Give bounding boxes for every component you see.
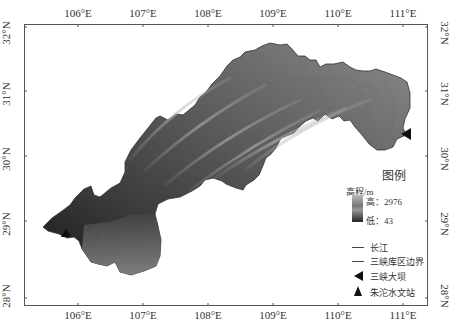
elevation-high: 高：2976	[366, 195, 402, 208]
legend-item-boundary: 三峡库区边界	[346, 255, 428, 267]
legend-item-label: 三峡大坝	[370, 270, 406, 283]
elevation-low: 低：43	[366, 214, 393, 227]
legend-item-yangtze: 长江	[346, 241, 428, 253]
legend-item-label: 朱沱水文站	[370, 286, 415, 299]
legend-item-dam: 三峡大坝	[346, 270, 428, 282]
legend-item-label: 长江	[370, 241, 388, 254]
elevation-colorbar	[352, 195, 363, 222]
legend-title: 图例	[382, 166, 406, 184]
triangle-up-icon	[354, 286, 362, 296]
boundary-line-icon	[352, 261, 364, 262]
legend-item-station: 朱沱水文站	[346, 286, 428, 298]
legend-item-label: 三峡库区边界	[370, 255, 424, 268]
triangle-left-icon	[354, 271, 363, 281]
river-line-icon	[352, 247, 364, 248]
